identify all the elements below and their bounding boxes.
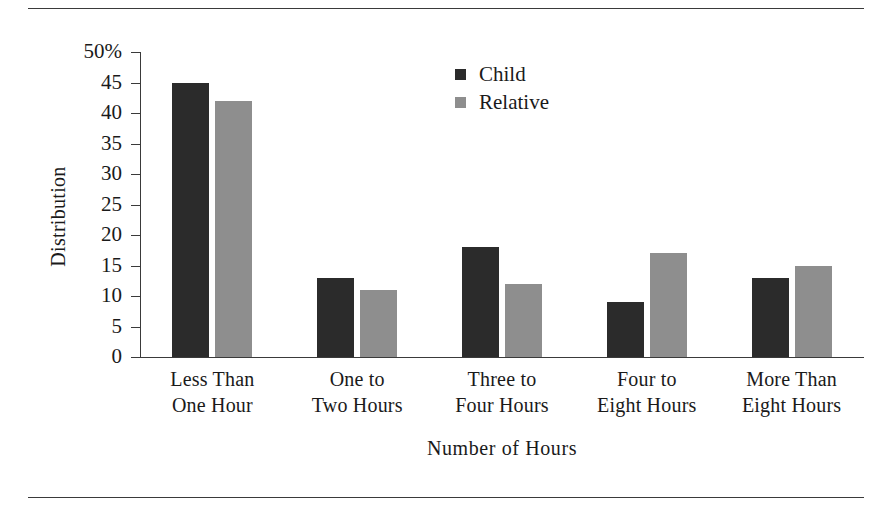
y-axis-tick	[131, 52, 140, 53]
y-axis-tick-label: 30	[101, 163, 122, 184]
y-axis-tick-label: 45	[101, 72, 122, 93]
bar-child[interactable]	[752, 278, 789, 357]
bar-relative[interactable]	[215, 101, 252, 357]
y-axis-title: Distribution	[47, 137, 70, 297]
bar-child[interactable]	[607, 302, 644, 357]
x-axis-category-label-line: Two Hours	[285, 392, 430, 418]
x-axis-category-label: One toTwo Hours	[285, 366, 430, 419]
y-axis-tick-label: 0	[112, 346, 123, 367]
y-axis-tick-label: 20	[101, 224, 122, 245]
y-axis-tick-label: 25	[101, 194, 122, 215]
x-axis-category-label-line: Four Hours	[430, 392, 575, 418]
bar-relative[interactable]	[360, 290, 397, 357]
legend-swatch-icon-relative	[455, 97, 466, 108]
legend-label-relative: Relative	[479, 92, 549, 113]
x-axis-category-label-line: One Hour	[140, 392, 285, 418]
legend-item-child[interactable]: Child	[455, 60, 549, 88]
y-axis-tick	[131, 266, 140, 267]
x-axis-category-label: Four toEight Hours	[574, 366, 719, 419]
y-axis-tick-label: 35	[101, 133, 122, 154]
x-axis-category-label-line: One to	[285, 366, 430, 392]
x-axis-category-label-line: Eight Hours	[719, 392, 864, 418]
bar-relative[interactable]	[795, 266, 832, 358]
bar-chart-figure: Distribution Number of Hours 05101520253…	[0, 0, 892, 505]
y-axis-tick-label: 40	[101, 102, 122, 123]
x-axis-category-label: Less ThanOne Hour	[140, 366, 285, 419]
top-divider-rule	[28, 8, 864, 9]
x-axis-category-label: Three toFour Hours	[430, 366, 575, 419]
x-axis-category-label-line: Three to	[430, 366, 575, 392]
y-axis-tick	[131, 296, 140, 297]
x-axis-category-label: More ThanEight Hours	[719, 366, 864, 419]
x-axis-category-label-line: Less Than	[140, 366, 285, 392]
legend-label-child: Child	[479, 64, 526, 85]
y-axis-tick	[131, 83, 140, 84]
x-axis-category-label-line: Eight Hours	[574, 392, 719, 418]
bar-relative[interactable]	[505, 284, 542, 357]
y-axis-tick-label: 15	[101, 255, 122, 276]
y-axis-tick	[131, 357, 140, 358]
bar-child[interactable]	[462, 247, 499, 357]
x-axis-title: Number of Hours	[140, 437, 864, 460]
y-axis-tick	[131, 113, 140, 114]
y-axis-tick-label: 50%	[84, 41, 123, 62]
y-axis-tick	[131, 174, 140, 175]
chart-legend: Child Relative	[455, 60, 549, 116]
bar-relative[interactable]	[650, 253, 687, 357]
legend-swatch-icon-child	[455, 69, 466, 80]
x-axis-category-label-line: Four to	[574, 366, 719, 392]
bar-child[interactable]	[317, 278, 354, 357]
x-axis-line	[140, 357, 864, 358]
y-axis-tick-label: 10	[101, 285, 122, 306]
y-axis-tick	[131, 144, 140, 145]
y-axis-tick	[131, 235, 140, 236]
bottom-divider-rule	[28, 497, 864, 498]
bar-child[interactable]	[172, 83, 209, 358]
x-axis-category-label-line: More Than	[719, 366, 864, 392]
y-axis-tick	[131, 205, 140, 206]
y-axis-line	[140, 52, 141, 358]
legend-item-relative[interactable]: Relative	[455, 88, 549, 116]
y-axis-tick-label: 5	[112, 316, 123, 337]
y-axis-tick	[131, 327, 140, 328]
